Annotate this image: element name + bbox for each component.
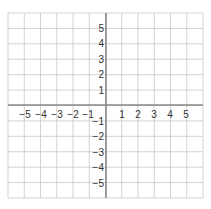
y-tick-label: −4 [93,162,105,173]
x-tick-label: 5 [183,109,189,120]
x-tick-label: 4 [167,109,173,120]
y-tick-label: 1 [98,85,104,96]
y-tick-label: −2 [93,131,105,142]
y-tick-label: −3 [93,147,105,158]
x-tick-label: 2 [135,109,141,120]
coordinate-plane: −5 −4 −3 −2 −1 1 2 3 4 5 5 4 3 2 1 −1 −2… [0,0,211,209]
y-tick-label: −1 [93,116,105,127]
y-tick-label: 4 [98,38,104,49]
x-tick-label: −3 [51,109,63,120]
axes [8,13,203,198]
x-tick-labels: −5 −4 −3 −2 −1 1 2 3 4 5 [19,109,189,120]
x-tick-label: 1 [119,109,125,120]
y-tick-label: −5 [93,178,105,189]
y-tick-label: 2 [98,69,104,80]
y-tick-label: 3 [98,54,104,65]
x-tick-label: 3 [151,109,157,120]
x-tick-label: −5 [19,109,31,120]
x-tick-label: −4 [35,109,47,120]
y-tick-label: 5 [98,23,104,34]
y-tick-labels: 5 4 3 2 1 −1 −2 −3 −4 −5 [93,23,105,189]
x-tick-label: −2 [67,109,79,120]
